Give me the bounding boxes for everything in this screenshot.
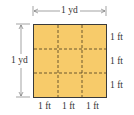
bottom-label-3: 1 ft [86,102,99,112]
bottom-label-2: 1 ft [62,102,75,112]
square-yard [34,25,107,98]
bottom-label-1: 1 ft [38,102,51,112]
right-label-1: 1 ft [110,33,123,43]
right-label-3: 1 ft [110,81,123,91]
left-dimension-label: 1 yd [11,56,28,66]
top-dimension-label: 1 yd [61,6,78,16]
right-label-2: 1 ft [110,57,123,67]
